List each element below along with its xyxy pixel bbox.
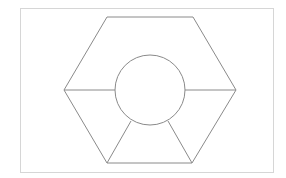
- diagram-canvas: [0, 0, 286, 178]
- spoke-line: [168, 121, 192, 163]
- spoke-line: [107, 121, 131, 163]
- spoke-lines: [64, 90, 236, 163]
- center-circle: [115, 55, 185, 125]
